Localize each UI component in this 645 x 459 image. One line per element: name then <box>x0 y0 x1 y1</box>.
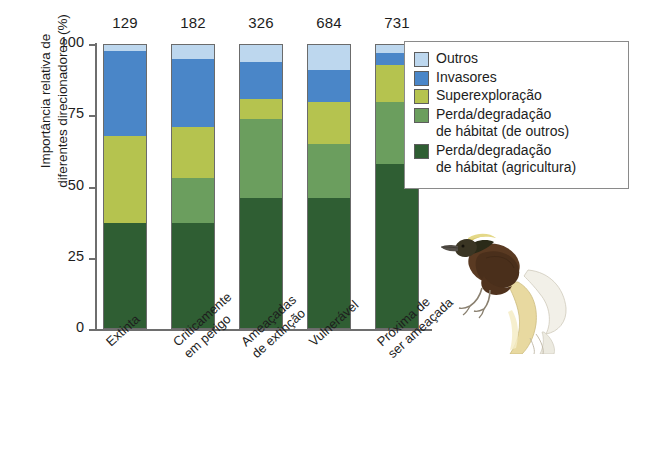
bar-segment <box>240 119 282 198</box>
legend-label-superexploracao: Superexploração <box>436 87 542 105</box>
bar-segment <box>240 45 282 62</box>
legend-swatch-outros <box>414 52 429 67</box>
bar-3[interactable] <box>239 44 283 329</box>
bar-total-label: 731 <box>367 14 427 31</box>
legend-label-outros: Outros <box>436 50 478 68</box>
bar-segment <box>172 45 214 59</box>
bar-segment <box>308 70 350 101</box>
legend-swatch-superexploracao <box>414 89 429 104</box>
bird-of-paradise-illustration <box>432 214 572 354</box>
bar-total-label: 684 <box>299 14 359 31</box>
legend-swatch-perda-habitat-agricultura <box>414 144 429 159</box>
y-tick-label-100: 100 <box>60 34 84 50</box>
bar-segment <box>240 62 282 99</box>
bar-2[interactable] <box>171 44 215 329</box>
bar-1[interactable] <box>103 44 147 329</box>
bar-segment <box>308 102 350 144</box>
y-tick-label-25: 25 <box>68 248 84 264</box>
legend-swatch-invasores <box>414 71 429 86</box>
bar-segment <box>172 127 214 178</box>
figure: Importância relativa de diferentes direc… <box>0 0 645 459</box>
bar-4[interactable] <box>307 44 351 329</box>
legend-item-superexploracao: Superexploração <box>414 87 620 105</box>
legend-label-perda-habitat-agricultura: Perda/degradação de hábitat (agricultura… <box>436 142 576 177</box>
y-tick-label-75: 75 <box>68 105 84 121</box>
bar-segment <box>240 99 282 119</box>
bar-segment <box>104 136 146 224</box>
legend-item-outros: Outros <box>414 50 620 68</box>
legend-item-perda-habitat-outros: Perda/degradação de hábitat (de outros) <box>414 106 620 141</box>
legend-label-invasores: Invasores <box>436 69 497 87</box>
y-tick-label-50: 50 <box>68 177 84 193</box>
bar-segment <box>104 223 146 328</box>
bar-segment <box>308 144 350 198</box>
bar-segment <box>172 178 214 223</box>
legend-swatch-perda-habitat-outros <box>414 108 429 123</box>
bar-segment <box>104 51 146 136</box>
bar-segment <box>172 59 214 127</box>
bar-segment <box>308 45 350 70</box>
bar-total-label: 182 <box>163 14 223 31</box>
plot-area: 129182326684731 <box>95 44 432 329</box>
legend-item-invasores: Invasores <box>414 69 620 87</box>
legend: Outros Invasores Superexploração Perda/d… <box>404 41 629 189</box>
legend-item-perda-habitat-agricultura: Perda/degradação de hábitat (agricultura… <box>414 142 620 177</box>
bar-total-label: 129 <box>95 14 155 31</box>
y-tick-label-0: 0 <box>76 319 84 335</box>
legend-label-perda-habitat-outros: Perda/degradação de hábitat (de outros) <box>436 106 569 141</box>
bar-total-label: 326 <box>231 14 291 31</box>
